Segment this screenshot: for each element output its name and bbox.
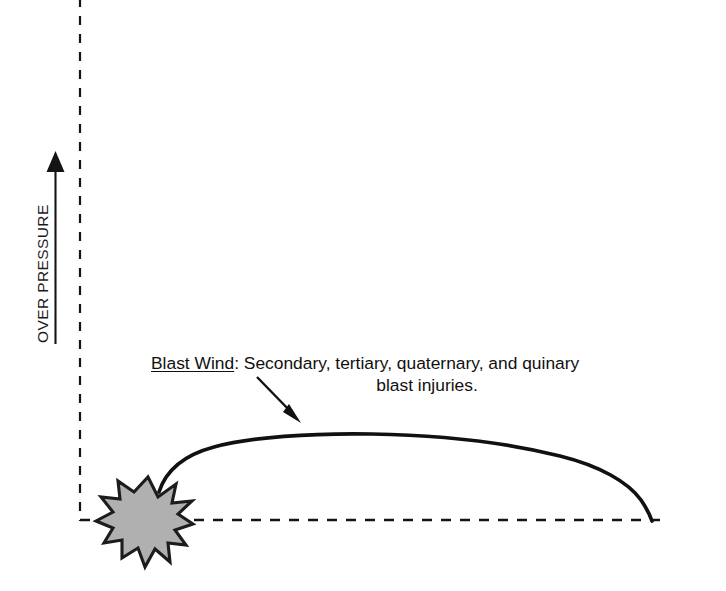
- blast-overpressure-diagram: OVER PRESSURE Blast Wind: Secondary, ter…: [0, 0, 726, 591]
- annotation-line-one: Blast Wind: Secondary, tertiary, quatern…: [151, 352, 717, 374]
- blast-wind-annotation: Blast Wind: Secondary, tertiary, quatern…: [151, 352, 717, 396]
- blast-wind-overpressure-curve: [159, 434, 652, 521]
- annotation-line-one-rest: : Secondary, tertiary, quaternary, and q…: [234, 353, 579, 373]
- y-axis-title: OVER PRESSURE: [34, 204, 52, 343]
- annotation-term: Blast Wind: [151, 353, 234, 373]
- diagram-canvas: [0, 0, 726, 591]
- explosion-starburst-icon: [96, 477, 193, 567]
- annotation-line-two: blast injuries.: [151, 374, 717, 396]
